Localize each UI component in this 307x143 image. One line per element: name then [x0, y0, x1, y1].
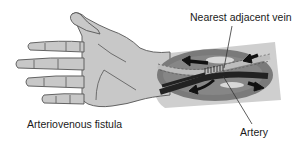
fistula-label: Arteriovenous fistula	[27, 119, 122, 130]
hand	[16, 13, 170, 107]
artery-label: Artery	[240, 127, 268, 138]
av-fistula-diagram: Nearest adjacent vein Arteriovenous fist…	[0, 0, 307, 143]
vein-label: Nearest adjacent vein	[190, 12, 292, 23]
